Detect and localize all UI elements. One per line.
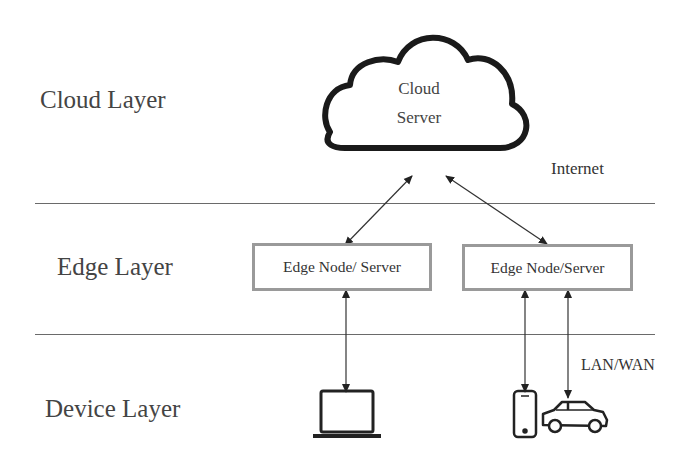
edge-node-2: Edge Node/Server <box>462 244 633 291</box>
cloud-label-line1: Cloud <box>369 74 469 103</box>
edge-node-1-label: Edge Node/ Server <box>283 258 401 276</box>
smartphone-icon <box>514 391 536 437</box>
edge-node-2-label: Edge Node/Server <box>490 259 604 277</box>
cloud-edge1-arrow <box>345 176 412 245</box>
internet-label: Internet <box>551 159 604 179</box>
edge-node-1: Edge Node/ Server <box>252 243 432 291</box>
laptop-icon <box>313 391 381 438</box>
cloud-label-line2: Server <box>369 103 469 132</box>
cloud-server-label: Cloud Server <box>369 74 469 132</box>
car-icon <box>543 402 607 432</box>
lan-wan-label: LAN/WAN <box>581 356 655 374</box>
diagram-graphics <box>0 0 696 465</box>
cloud-edge2-arrow <box>446 176 547 244</box>
